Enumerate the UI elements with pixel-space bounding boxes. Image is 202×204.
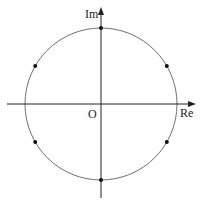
- root-point: [99, 26, 103, 30]
- real-axis-label: Re: [180, 106, 193, 120]
- complex-plane-diagram: Im Re O: [0, 0, 202, 204]
- root-point: [165, 140, 169, 144]
- imaginary-axis-arrow-icon: [98, 7, 104, 15]
- root-point: [165, 64, 169, 68]
- origin-label: O: [88, 107, 97, 121]
- root-point: [33, 64, 37, 68]
- root-point: [33, 140, 37, 144]
- imaginary-axis-label: Im: [85, 7, 99, 21]
- root-point: [99, 178, 103, 182]
